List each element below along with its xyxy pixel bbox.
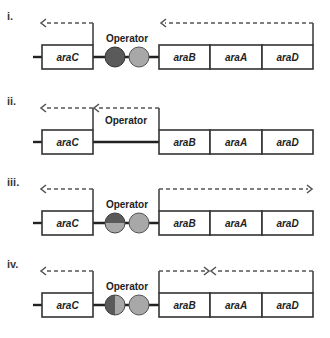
gene-label-araB: araB [173,52,195,63]
panel-i: i. araC araB araA araD Operator [7,10,313,69]
ara-operon-diagram: i. araC araB araA araD Operator ii. [0,0,330,338]
gene-label-araB: araB [173,300,195,311]
gene-label-araC: araC [56,300,79,311]
operator-label: Operator [106,199,148,210]
araC-transcript-arrow [41,267,93,293]
gene-label-araB: araB [173,137,195,148]
araC-transcript-arrow [41,19,93,45]
panel-label: i. [7,10,13,22]
gene-label-araC: araC [56,52,79,63]
operator-label: Operator [105,115,147,126]
gene-label-araB: araB [173,218,195,229]
panel-iv: iv. araC araB araA araD Operator [7,258,313,317]
gene-label-araD: araD [276,218,298,229]
regulator-protein-light [129,47,149,67]
panel-ii: ii. Operator araC araB araA araD [7,95,313,154]
panel-label: iv. [7,258,18,270]
araC-transcript-arrow [41,185,93,211]
gene-label-araA: araA [225,300,247,311]
panel-iii: iii. araC araB araA araD Operator [7,176,313,235]
operator-label: Operator [106,281,148,292]
operator-label: Operator [106,33,148,44]
araBAD-transcript-arrow [161,19,313,45]
gene-label-araD: araD [276,300,298,311]
regulator-protein-dark [105,47,125,67]
regulator-protein-split-horizontal [105,213,125,233]
regulator-protein-light [129,213,149,233]
regulator-protein-split-vertical [105,295,125,315]
gene-label-araC: araC [56,218,79,229]
regulator-protein-light [129,295,149,315]
gene-label-araA: araA [225,218,247,229]
gene-label-araD: araD [276,137,298,148]
gene-label-araA: araA [225,52,247,63]
araBAD-transcript-arrow [159,185,312,211]
araBAD-converging-transcripts [159,267,313,293]
gene-label-araA: araA [225,137,247,148]
panel-label: iii. [7,176,19,188]
gene-label-araC: araC [56,137,79,148]
panel-label: ii. [7,95,16,107]
gene-label-araD: araD [276,52,298,63]
araC-transcript-arrow [41,104,93,130]
